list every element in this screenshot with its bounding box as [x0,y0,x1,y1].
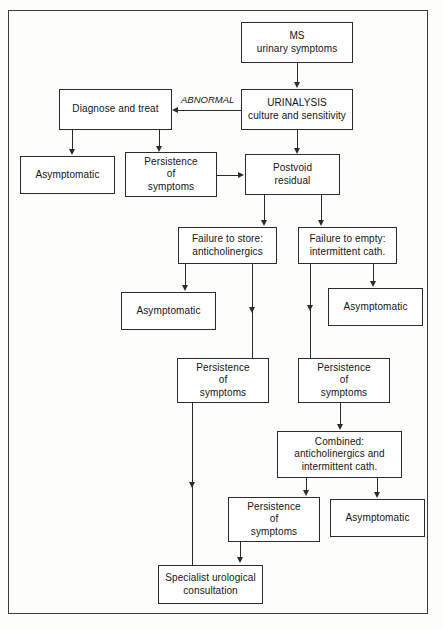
edge-persistence4-to-specialist [240,542,241,558]
node-asymptomatic-2: Asymptomatic [121,292,216,330]
node-urinalysis: URINALYSIS culture and sensitivity [241,89,353,130]
node-asymptomatic-4: Asymptomatic [330,499,425,537]
edge-postvoid-to-failure-store [264,195,265,221]
arrowhead-diagnose-to-persistence1 [156,146,162,152]
edge-combined-to-asymptomatic4 [377,478,378,492]
node-failure-to-store: Failure to store: anticholinergics [178,227,277,264]
arrowhead-urinalysis-to-diagnose [172,107,178,113]
edge-failure-empty-to-asymptomatic3 [373,264,374,282]
node-postvoid-residual: Postvoid residual [245,154,340,195]
node-persistence-4: Persistence of symptoms [228,497,320,542]
arrowhead-persistence4-to-specialist [237,557,243,563]
arrowhead-diagnose-to-asymptomatic1 [69,149,75,155]
arrowhead-failure-empty-to-asymptomatic3 [370,281,376,287]
node-persistence-1: Persistence of symptoms [125,152,217,197]
node-persistence-2: Persistence of symptoms [177,358,269,403]
node-asymptomatic-3: Asymptomatic [328,288,423,326]
arrowhead-combined-to-persistence4 [303,490,309,496]
arrowhead-combined-to-asymptomatic4 [374,492,380,498]
figure-canvas: MS urinary symptoms URINALYSIS culture a… [0,0,443,629]
arrowhead-ms-to-urinalysis [294,82,300,88]
arrowhead-persistence1-to-postvoid [238,172,244,178]
edge-failure-store-to-asymptomatic2 [185,264,186,286]
node-diagnose-and-treat: Diagnose and treat [59,89,172,130]
node-ms-urinary-symptoms: MS urinary symptoms [241,22,353,63]
edge-urinalysis-to-postvoid [297,130,298,148]
arrowhead-persistence3-to-combined [337,424,343,430]
arrowhead-failure-store-to-asymptomatic2 [182,285,188,291]
arrowhead-failure-store-to-persistence2 [249,307,255,313]
arrowhead-persistence2-to-specialist [189,482,195,488]
edge-postvoid-to-failure-empty [321,195,322,221]
edge-urinalysis-to-diagnose [178,110,241,111]
arrowhead-urinalysis-to-postvoid [294,148,300,154]
node-asymptomatic-1: Asymptomatic [20,156,115,194]
edge-ms-to-urinalysis [297,63,298,83]
edge-persistence1-to-postvoid [217,175,239,176]
arrowhead-postvoid-to-failure-empty [318,220,324,226]
arrowhead-failure-empty-to-persistence3 [307,305,313,311]
edge-diagnose-to-asymptomatic1 [72,130,73,150]
edge-label-abnormal: ABNORMAL [181,94,234,105]
edge-persistence3-to-combined [340,403,341,425]
node-failure-to-empty: Failure to empty: intermittent cath. [298,227,397,264]
arrowhead-postvoid-to-failure-store [261,220,267,226]
node-persistence-3: Persistence of symptoms [298,358,390,403]
node-combined-therapy: Combined: anticholinergics and intermitt… [277,431,402,478]
edge-failure-empty-to-persistence3 [310,264,311,358]
edge-diagnose-to-persistence1 [159,130,160,147]
node-specialist-consultation: Specialist urological consultation [158,565,263,604]
